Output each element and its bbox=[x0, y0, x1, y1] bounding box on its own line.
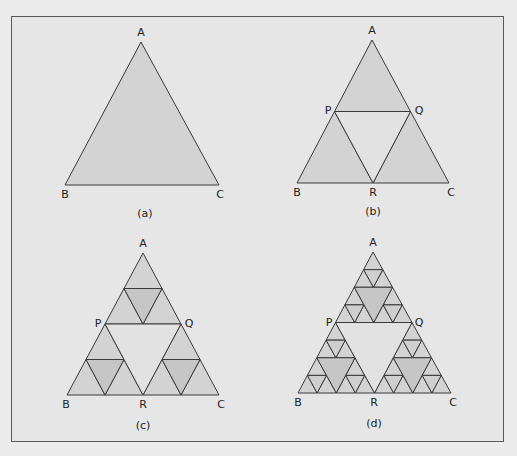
vertex-label-r: R bbox=[139, 398, 147, 411]
vertex-label-b: B bbox=[294, 396, 302, 409]
vertex-label-c: C bbox=[217, 398, 225, 411]
filled-triangle bbox=[124, 253, 162, 289]
panel-d-third-subdivision: APQBRC(d) bbox=[294, 236, 457, 430]
vertex-label-c: C bbox=[447, 186, 455, 199]
vertex-label-q: Q bbox=[185, 317, 194, 330]
vertex-label-p: P bbox=[326, 316, 333, 329]
panel-caption-c: (c) bbox=[136, 419, 151, 432]
panel-caption-b: (b) bbox=[365, 205, 381, 218]
vertex-label-c: C bbox=[216, 188, 224, 201]
vertex-label-q: Q bbox=[415, 104, 424, 117]
filled-triangle bbox=[65, 42, 219, 185]
vertex-label-p: P bbox=[325, 104, 332, 117]
vertex-label-q: Q bbox=[415, 316, 424, 329]
panel-c-second-subdivision: APQBRC(c) bbox=[62, 237, 225, 432]
filled-triangle bbox=[364, 252, 383, 270]
vertex-label-b: B bbox=[293, 186, 301, 199]
vertex-label-p: P bbox=[95, 317, 102, 330]
panel-caption-d: (d) bbox=[366, 417, 382, 430]
vertex-label-a: A bbox=[368, 24, 376, 37]
vertex-label-c: C bbox=[449, 396, 457, 409]
sierpinski-diagram: ABC(a) APQBRC(b) APQBRC(c) APQBRC(d) bbox=[0, 0, 517, 456]
panel-b-first-subdivision: APQBRC(b) bbox=[293, 24, 455, 218]
vertex-label-b: B bbox=[61, 188, 69, 201]
filled-triangle bbox=[335, 40, 411, 112]
panel-caption-a: (a) bbox=[137, 207, 152, 220]
vertex-label-r: R bbox=[370, 396, 378, 409]
vertex-label-b: B bbox=[62, 398, 70, 411]
vertex-label-a: A bbox=[369, 236, 377, 249]
vertex-label-r: R bbox=[369, 186, 377, 199]
vertex-label-a: A bbox=[137, 26, 145, 39]
panel-a-triangle: ABC(a) bbox=[61, 26, 224, 220]
vertex-label-a: A bbox=[139, 237, 147, 250]
